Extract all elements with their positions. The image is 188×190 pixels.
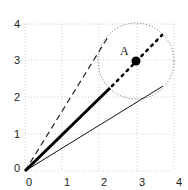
x-tick-4: 4 [176, 176, 182, 188]
x-tick-3: 3 [139, 176, 145, 188]
x-axis-ticks: 0 1 2 3 4 [26, 176, 182, 188]
y-tick-1: 1 [14, 128, 20, 140]
thick-line [25, 88, 110, 171]
y-tick-0: 0 [14, 162, 20, 174]
point-a [132, 57, 141, 66]
x-tick-2: 2 [101, 176, 107, 188]
y-tick-3: 3 [14, 54, 20, 66]
y-tick-2: 2 [14, 91, 20, 103]
y-tick-4: 4 [14, 18, 20, 30]
point-a-label: A [120, 44, 129, 58]
x-tick-1: 1 [64, 176, 70, 188]
y-axis-ticks: 0 1 2 3 4 [14, 18, 20, 174]
diagram: 0 1 2 3 4 0 1 2 3 4 A [0, 0, 188, 190]
thin-line [25, 86, 163, 171]
x-tick-0: 0 [26, 176, 32, 188]
